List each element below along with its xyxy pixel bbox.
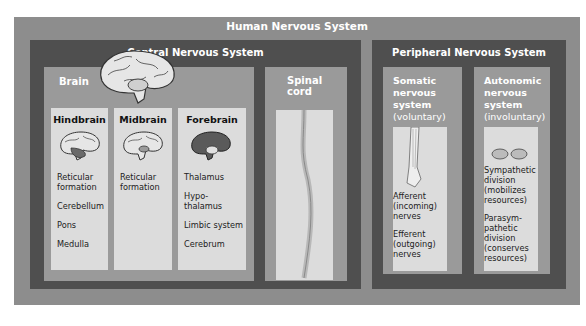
autonomic-panel: Sympathetic division (mobilizes resource…: [484, 127, 538, 271]
list-item: Cerebrum: [184, 239, 246, 249]
title-line: nervous: [484, 87, 545, 99]
arm-icon: [399, 127, 429, 189]
somatic-items: Afferent (incoming) nerves Efferent (out…: [393, 191, 457, 267]
subtitle: (voluntary): [393, 111, 446, 123]
list-item: Pons: [57, 220, 108, 230]
diagram-title: Human Nervous System: [14, 20, 580, 32]
brain-illustration-icon: [94, 47, 180, 109]
autonomic-box: Autonomic nervous system (involuntary) S…: [474, 67, 550, 274]
label-line: Spinal: [287, 75, 322, 86]
hindbrain-items: Reticular formation Cerebellum Pons Medu…: [57, 172, 108, 258]
forebrain-column: Forebrain Thalamus Hypo-thalamus Limbic …: [178, 108, 246, 270]
list-item: Reticular formation: [120, 172, 172, 192]
list-item: Parasym-pathetic division (conserves res…: [484, 213, 542, 263]
hindbrain-column: Hindbrain Reticular formation Cerebellum…: [51, 108, 108, 270]
title-line: Somatic: [393, 75, 446, 87]
list-item: Reticular formation: [57, 172, 108, 192]
autonomic-title: Autonomic nervous system (involuntary): [484, 75, 545, 123]
brain-label: Brain: [59, 76, 89, 87]
title-line: system: [393, 99, 446, 111]
spinal-cord-box: Spinal cord: [265, 67, 347, 281]
list-item: Limbic system: [184, 220, 246, 230]
spinal-cord-label: Spinal cord: [287, 75, 322, 97]
title-line: Autonomic: [484, 75, 545, 87]
title-line: nervous: [393, 87, 446, 99]
human-nervous-system-frame: Human Nervous System Central Nervous Sys…: [14, 17, 580, 305]
peripheral-nervous-system-box: Peripheral Nervous System Somatic nervou…: [372, 40, 566, 289]
list-item: Cerebellum: [57, 201, 108, 211]
autonomic-items: Sympathetic division (mobilizes resource…: [484, 165, 542, 271]
subtitle: (involuntary): [484, 111, 545, 123]
midbrain-column: Midbrain Reticular formation: [114, 108, 172, 270]
somatic-panel: Afferent (incoming) nerves Efferent (out…: [393, 127, 447, 271]
forebrain-items: Thalamus Hypo-thalamus Limbic system Cer…: [184, 172, 246, 258]
list-item: Medulla: [57, 239, 108, 249]
forebrain-heading: Forebrain: [178, 114, 246, 125]
hindbrain-heading: Hindbrain: [51, 114, 108, 125]
spinal-cord-icon: [286, 110, 322, 280]
list-item: Thalamus: [184, 172, 246, 182]
title-line: system: [484, 99, 545, 111]
midbrain-icon: [120, 130, 166, 164]
hindbrain-icon: [57, 130, 103, 164]
peripheral-title: Peripheral Nervous System: [372, 47, 566, 58]
central-title: Central Nervous System: [30, 47, 361, 58]
somatic-title: Somatic nervous system (voluntary): [393, 75, 446, 123]
central-nervous-system-box: Central Nervous System Brain Hindbrain R…: [30, 40, 361, 289]
brain-box: Brain Hindbrain Reticular formation Cere…: [44, 67, 254, 281]
somatic-box: Somatic nervous system (voluntary) Affer…: [383, 67, 462, 274]
forebrain-icon: [188, 130, 234, 164]
list-item: Hypo-thalamus: [184, 191, 246, 211]
ganglia-icon: [490, 145, 530, 161]
list-item: Sympathetic division (mobilizes resource…: [484, 165, 542, 205]
midbrain-items: Reticular formation: [120, 172, 172, 201]
spinal-cord-panel: [276, 110, 333, 280]
label-line: cord: [287, 86, 322, 97]
list-item: Afferent (incoming) nerves: [393, 191, 457, 221]
list-item: Efferent (outgoing) nerves: [393, 229, 457, 259]
midbrain-heading: Midbrain: [114, 114, 172, 125]
